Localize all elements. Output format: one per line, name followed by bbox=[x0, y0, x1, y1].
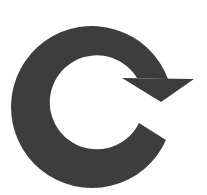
refresh-icon-container bbox=[0, 0, 207, 195]
arc-body bbox=[11, 26, 168, 188]
arrowhead bbox=[122, 78, 194, 102]
refresh-icon bbox=[0, 0, 207, 195]
